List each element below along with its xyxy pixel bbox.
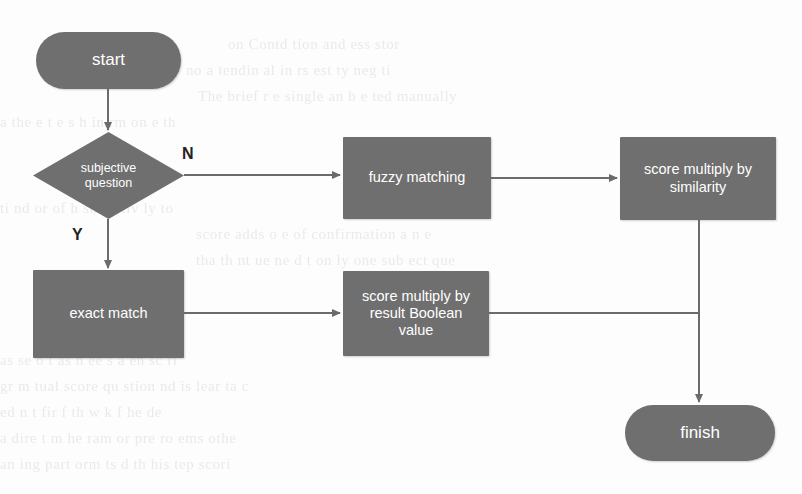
node-subjective-question-label: subjective question [81, 161, 137, 191]
edge-label-yes: Y [72, 226, 83, 244]
edge-label-no: N [182, 145, 194, 163]
node-subjective-question-label-line1: subjective [81, 161, 137, 176]
flowchart-page: on Contd tion and ess stor no a tendin a… [0, 0, 802, 494]
flowchart-diagram: start subjective question N Y fuzzy matc… [0, 0, 802, 494]
node-subjective-question-label-line2: question [81, 176, 137, 191]
flowchart-connectors [0, 0, 802, 494]
